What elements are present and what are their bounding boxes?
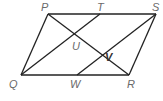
label-v: V <box>105 51 114 63</box>
label-s: S <box>152 1 160 13</box>
segment-qp <box>21 14 48 75</box>
label-t: T <box>97 1 105 13</box>
label-u: U <box>72 40 80 52</box>
label-q: Q <box>9 78 18 90</box>
label-w: W <box>70 78 82 90</box>
segment-sr <box>129 14 156 75</box>
geometry-diagram: P T S U V Q W R <box>0 0 163 101</box>
label-r: R <box>127 78 135 90</box>
label-p: P <box>41 1 49 13</box>
